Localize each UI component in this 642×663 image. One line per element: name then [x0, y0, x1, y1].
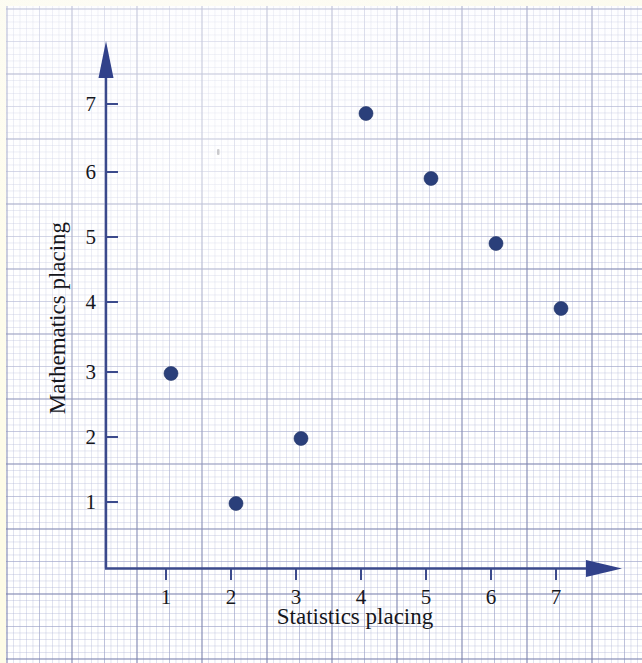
y-axis-arrow-icon	[99, 41, 114, 78]
y-tick-label-6: 6	[86, 162, 97, 183]
y-tick-label-5: 5	[86, 227, 97, 248]
y-tick-label-3: 3	[86, 362, 97, 383]
data-point-1[interactable]	[164, 367, 178, 381]
x-tick-label-6: 6	[486, 587, 497, 608]
data-point-3[interactable]	[294, 432, 308, 446]
x-axis-title: Statistics placing	[277, 605, 434, 628]
y-tick-label-4: 4	[86, 292, 97, 313]
data-point-7[interactable]	[554, 302, 568, 316]
y-axis-ticks	[106, 104, 118, 502]
paper-smudge	[217, 149, 220, 155]
y-tick-label-1: 1	[86, 492, 97, 513]
y-axis-title: Mathematics placing	[46, 222, 69, 414]
plot-canvas	[0, 0, 642, 663]
x-tick-label-1: 1	[161, 587, 172, 608]
data-point-6[interactable]	[489, 237, 503, 251]
data-point-4[interactable]	[359, 107, 373, 121]
data-points-group	[164, 107, 568, 511]
scatter-plot-page: 1 2 3 4 5 6 7 1 2 3 4 5 6 7 Statistics p…	[0, 0, 642, 663]
y-tick-label-2: 2	[86, 427, 97, 448]
x-tick-label-2: 2	[226, 587, 237, 608]
y-tick-label-7: 7	[86, 94, 97, 115]
data-point-2[interactable]	[229, 497, 243, 511]
data-point-5[interactable]	[424, 172, 438, 186]
x-axis-arrow-icon	[586, 560, 622, 577]
x-tick-label-7: 7	[551, 587, 562, 608]
x-axis-ticks	[166, 569, 556, 581]
